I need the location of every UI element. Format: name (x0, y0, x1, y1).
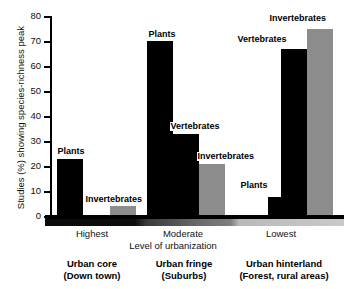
bar-label-lowest-plants: Plants (240, 181, 268, 190)
group-caption-urban-fringe-line1: Urban fringe (132, 258, 236, 270)
x-tick-label-highest: Highest (52, 228, 132, 239)
bars-layer (50, 16, 344, 216)
group-caption-urban-hinterland-line2: (Forest, rural areas) (222, 270, 346, 282)
bar-label-highest-invertebrates: Invertebrates (85, 195, 143, 204)
bar-moderate-vertebrates (173, 134, 199, 217)
x-tick-label-lowest: Lowest (239, 228, 323, 239)
group-caption-urban-fringe: Urban fringe (Suburbs) (132, 258, 236, 282)
bar-label-moderate-invertebrates: Invertebrates (197, 152, 255, 161)
bar-moderate-invertebrates (199, 164, 225, 217)
bar-label-moderate-plants: Plants (148, 30, 176, 39)
bar-label-lowest-invertebrates: Invertebrates (269, 14, 327, 23)
bar-lowest-vertebrates (281, 49, 307, 217)
bar-label-lowest-vertebrates: Vertebrates (237, 35, 287, 44)
y-tick-label-30: 30 (1, 136, 41, 146)
bar-lowest-plants (268, 197, 281, 216)
bar-label-moderate-vertebrates: Vertebrates (170, 122, 220, 131)
y-tick-label-0: 0 (1, 211, 41, 221)
y-tick-label-40: 40 (1, 111, 41, 121)
y-tick-label-60: 60 (1, 61, 41, 71)
bar-lowest-invertebrates (307, 29, 333, 217)
x-axis-title: Level of urbanization (0, 240, 346, 251)
group-caption-urban-hinterland-line1: Urban hinterland (222, 258, 346, 270)
y-tick-label-10: 10 (1, 186, 41, 196)
bar-chart-figure: Studies (%) showing species-richness pea… (0, 0, 346, 289)
y-tick-label-50: 50 (1, 86, 41, 96)
y-tick-label-20: 20 (1, 161, 41, 171)
x-tick-label-moderate: Moderate (140, 228, 226, 239)
y-tick-label-70: 70 (1, 36, 41, 46)
bar-highest-plants (57, 159, 83, 217)
y-tick-label-80: 80 (1, 11, 41, 21)
urbanization-gradient-band (45, 219, 344, 226)
bar-label-highest-plants: Plants (57, 147, 85, 156)
group-caption-urban-hinterland: Urban hinterland (Forest, rural areas) (222, 258, 346, 282)
group-caption-urban-fringe-line2: (Suburbs) (132, 270, 236, 282)
